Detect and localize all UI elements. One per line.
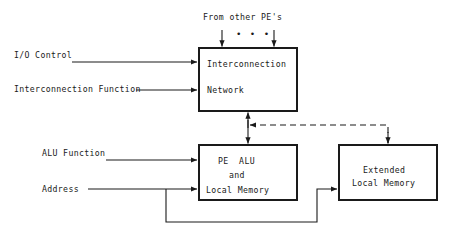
block-diagram: From other PE's • • • I/O Control Interc… xyxy=(0,0,453,233)
box-label-extended-local-memory: Local Memory xyxy=(352,178,415,188)
from-other-pes-label: From other PE's xyxy=(203,12,282,22)
box-label-extended: Extended xyxy=(363,165,405,175)
label-interconnection-function: Interconnection Function xyxy=(14,84,141,94)
box-label-network: Network xyxy=(207,85,244,95)
box-label-and: and xyxy=(229,170,245,180)
label-address: Address xyxy=(42,184,79,194)
label-io-control: I/O Control xyxy=(14,50,72,60)
box-interconnection-network xyxy=(199,48,297,111)
box-label-interconnection: Interconnection xyxy=(207,59,286,69)
ellipsis-dots: • • • xyxy=(236,29,271,39)
diagram-canvas xyxy=(0,0,453,233)
box-label-local-memory: Local Memory xyxy=(206,185,269,195)
box-label-pe-alu: PE ALU xyxy=(218,156,255,166)
label-alu-function: ALU Function xyxy=(42,148,105,158)
dashed-link-extended-memory-to-network xyxy=(250,125,388,143)
